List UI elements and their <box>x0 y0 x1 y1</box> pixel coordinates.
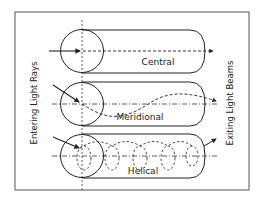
diagram-frame <box>15 12 249 190</box>
meridional-mode-fiber: Meridional <box>52 82 218 126</box>
helical-label: Helical <box>128 166 158 176</box>
central-mode-fiber: Central <box>49 30 213 74</box>
helical-exit-ray <box>204 139 216 146</box>
helical-entering-ray <box>53 137 79 148</box>
central-label: Central <box>142 57 175 67</box>
exiting-light-beams-label: Exiting Light Beams <box>225 60 235 145</box>
fiber-modes-diagram: Central Meridional Helical <box>0 0 264 198</box>
meridional-label: Meridional <box>117 112 164 122</box>
entering-light-rays-label: Entering Light Rays <box>29 61 39 145</box>
meridional-entering-ray <box>53 85 79 102</box>
helical-mode-fiber: Helical <box>52 134 218 178</box>
